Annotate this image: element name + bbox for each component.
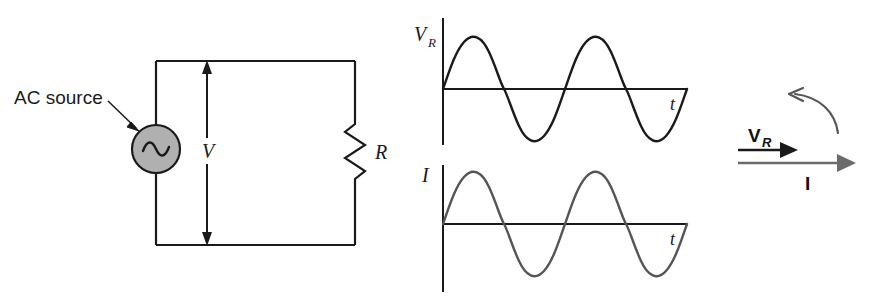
voltage-plot: V R t bbox=[414, 18, 688, 145]
resistor-label: R bbox=[374, 141, 387, 163]
current-phasor-label: I bbox=[805, 173, 810, 194]
circuit-wires bbox=[156, 61, 355, 245]
ac-source-label: AC source bbox=[14, 87, 103, 108]
current-plot: I t bbox=[421, 164, 688, 292]
voltage-phasor-sublabel: R bbox=[762, 135, 772, 150]
ac-source-leader bbox=[108, 101, 139, 131]
ac-source-symbol bbox=[132, 125, 180, 173]
current-phasor-arrowhead-icon bbox=[837, 154, 856, 172]
voltage-plot-y-sublabel: R bbox=[427, 35, 436, 50]
voltage-phasor-label: V bbox=[748, 125, 761, 146]
current-phasor bbox=[738, 154, 856, 172]
rotation-arrow bbox=[789, 88, 838, 133]
resistor-symbol bbox=[345, 118, 365, 186]
voltage-plot-y-label: V bbox=[414, 23, 429, 45]
voltage-plot-x-label: t bbox=[670, 94, 676, 114]
leader-arrowhead-icon bbox=[127, 122, 139, 131]
ac-resistor-figure: AC source V R V R t bbox=[0, 0, 893, 308]
voltage-phasor-arrowhead-icon bbox=[780, 142, 798, 158]
circuit-panel: AC source V R bbox=[14, 60, 387, 246]
current-plot-y-label: I bbox=[421, 164, 430, 186]
current-plot-x-label: t bbox=[670, 229, 676, 249]
phasor-diagram: V R I bbox=[738, 88, 856, 194]
